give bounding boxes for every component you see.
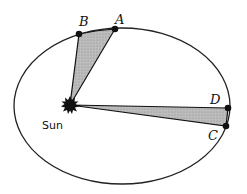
sector-cd bbox=[70, 105, 228, 126]
label-c: C bbox=[208, 128, 218, 143]
point-b-marker bbox=[76, 31, 83, 38]
label-a: A bbox=[114, 12, 124, 27]
label-b: B bbox=[78, 14, 89, 29]
kepler-diagram: B A D C Sun bbox=[0, 0, 247, 194]
sector-ab bbox=[70, 29, 115, 105]
label-sun: Sun bbox=[42, 119, 63, 132]
sun-icon bbox=[61, 96, 79, 114]
label-d: D bbox=[209, 92, 221, 107]
point-d-marker bbox=[225, 105, 232, 112]
point-c-marker bbox=[223, 123, 230, 130]
